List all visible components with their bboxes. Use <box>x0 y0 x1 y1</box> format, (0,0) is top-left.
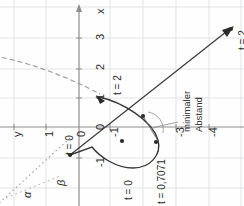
annotation-minimal-distance-line1: minimaler <box>182 91 193 132</box>
figure-canvas: x 3 2 1 0 -1 y 1 0 -1 -3 -4 t = 0 t = 0 … <box>0 0 244 206</box>
axis-arrowheads <box>76 4 82 12</box>
x-tick-1: 1 <box>94 94 106 100</box>
grid-lines <box>0 0 244 206</box>
label-alpha: α <box>21 192 33 198</box>
label-t2-beta: t = 2 <box>237 30 244 50</box>
marker-foot <box>141 114 145 118</box>
label-beta: β <box>55 180 67 186</box>
marker-beta-t2 <box>229 27 233 31</box>
annotation-minimal-distance-line2: Abstand <box>194 97 205 132</box>
marker-curve-min <box>154 140 158 144</box>
label-t2-alpha: t = 2 <box>112 75 123 95</box>
y-tick-neg1: -1 <box>108 127 120 137</box>
beta-dotted-extension <box>0 138 70 206</box>
y-tick-neg4: -4 <box>207 127 219 137</box>
x-tick-3: 3 <box>94 34 106 40</box>
y-tick-1: 1 <box>43 131 55 137</box>
y-axis-name: y <box>11 132 23 138</box>
x-tick-2: 2 <box>94 64 106 70</box>
label-t0-alpha: t = 0 <box>123 180 134 200</box>
plot-svg <box>0 0 244 206</box>
minimal-distance-arc <box>148 112 163 133</box>
label-t-min: t = 0,7071 <box>156 159 167 204</box>
x-tick-0: 0 <box>94 124 106 130</box>
marker-t07071 <box>120 139 124 143</box>
alpha-dashed-extension <box>0 56 100 94</box>
x-axis-name: x <box>94 9 106 15</box>
x-tick-neg1: -1 <box>94 157 106 167</box>
label-t0-beta: t = 0 <box>64 135 75 155</box>
y-tick-0: 0 <box>75 131 87 137</box>
